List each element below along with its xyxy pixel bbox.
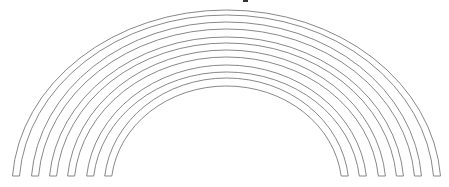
top-mark bbox=[243, 0, 248, 2]
rainbow-arches bbox=[0, 0, 449, 187]
arch-bands bbox=[12, 10, 440, 176]
